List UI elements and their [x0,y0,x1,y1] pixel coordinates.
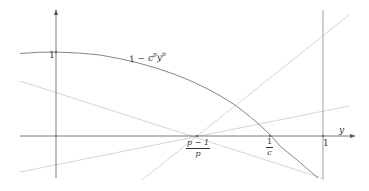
y-axis-arrow-icon [54,9,58,15]
tick-dot-p-minus-1-over-p [196,135,198,137]
frac-denominator: c [267,148,271,157]
descending-line [20,81,322,178]
plot-figure: 1 1 − cpyp y p − 1 p 1 c 1 [0,0,369,191]
steep-line [142,15,349,180]
tick-label-p-minus-1-over-p: p − 1 p [186,139,210,158]
tick-label-one-over-c: 1 c [266,138,273,157]
frac-numerator: p − 1 [186,139,210,149]
y-axis-tick-label-one: 1 [49,51,55,60]
tick-dot-one [322,135,324,137]
frac-denominator: p [195,149,200,158]
x-axis-arrow-icon [350,134,356,138]
x-axis-label: y [339,126,344,135]
curve-label-y-exp: p [161,50,165,57]
curve-1-minus-cpyp [20,52,318,178]
frac-numerator: 1 [266,138,273,148]
tick-dot-one-y [55,51,57,53]
tick-label-one: 1 [323,139,329,148]
curve-label-prefix: 1 − [129,53,149,64]
